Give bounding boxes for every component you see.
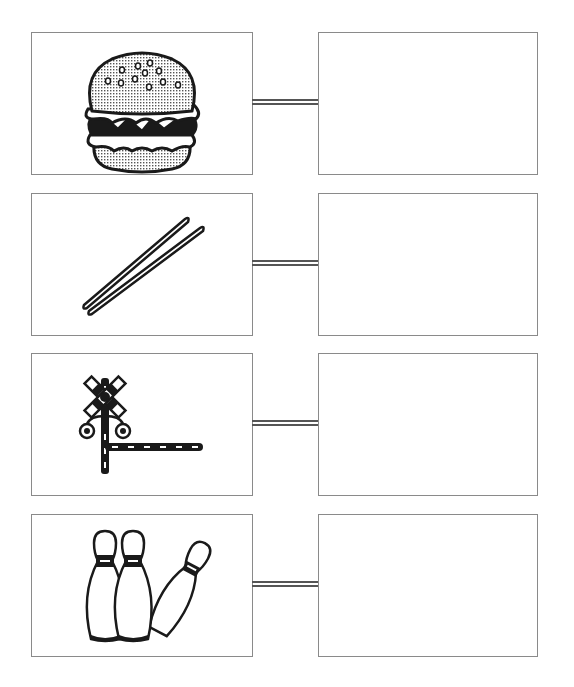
picture-box-hamburger — [31, 32, 253, 175]
matching-row-4 — [0, 514, 574, 657]
matching-row-1 — [0, 32, 574, 175]
connector-line — [252, 420, 318, 426]
railroad-crossing-icon — [32, 354, 252, 495]
picture-box-bowling-pins — [31, 514, 253, 657]
matching-row-2 — [0, 193, 574, 336]
connector-line — [252, 581, 318, 587]
connector-line — [252, 260, 318, 266]
connector-line — [252, 99, 318, 105]
chopsticks-icon — [32, 194, 252, 335]
matching-row-3 — [0, 353, 574, 496]
answer-box-1[interactable] — [318, 32, 538, 175]
picture-box-chopsticks — [31, 193, 253, 336]
answer-box-3[interactable] — [318, 353, 538, 496]
answer-box-2[interactable] — [318, 193, 538, 336]
picture-box-railroad-crossing — [31, 353, 253, 496]
answer-box-4[interactable] — [318, 514, 538, 657]
bowling-pins-icon — [32, 515, 252, 656]
hamburger-icon — [32, 33, 252, 174]
